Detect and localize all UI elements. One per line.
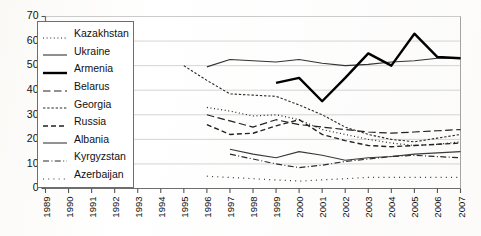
legend-swatch-icon	[42, 99, 68, 109]
svg-text:2000: 2000	[294, 197, 305, 218]
legend-item-kyrgyzstan[interactable]: Kyrgyzstan	[42, 148, 131, 166]
svg-text:1999: 1999	[271, 197, 282, 218]
svg-text:1993: 1993	[133, 197, 144, 218]
legend-item-armenia[interactable]: Armenia	[42, 60, 131, 78]
legend-item-label: Kazakhstan	[74, 28, 129, 39]
legend-item-georgia[interactable]: Georgia	[42, 95, 131, 113]
legend-item-kazakhstan[interactable]: Kazakhstan	[42, 25, 131, 43]
series-line-russia	[207, 120, 461, 147]
legend-swatch-icon	[42, 134, 68, 144]
svg-text:2003: 2003	[363, 197, 374, 218]
legend: KazakhstanUkraineArmeniaBelarusGeorgiaRu…	[37, 21, 134, 188]
svg-text:1994: 1994	[156, 197, 167, 218]
x-axis-labels: 1989199019911992199319941995199619971998…	[41, 197, 467, 218]
legend-item-label: Albania	[74, 134, 109, 145]
svg-text:1989: 1989	[41, 197, 52, 218]
legend-item-label: Kyrgyzstan	[74, 151, 126, 162]
svg-text:70: 70	[27, 9, 39, 21]
legend-item-azerbaijan[interactable]: Azerbaijan	[42, 166, 131, 184]
legend-item-label: Belarus	[74, 81, 110, 92]
svg-text:1998: 1998	[248, 197, 259, 218]
series-line-albania	[230, 149, 461, 160]
legend-swatch-icon	[42, 82, 68, 92]
series-line-georgia	[184, 66, 461, 142]
series-line-kazakhstan	[207, 107, 461, 145]
legend-swatch-icon	[42, 117, 68, 127]
svg-text:2007: 2007	[456, 197, 467, 218]
svg-text:1995: 1995	[179, 197, 190, 218]
legend-swatch-icon	[42, 29, 68, 39]
legend-swatch-icon	[42, 170, 68, 180]
series-line-azerbaijan	[207, 176, 461, 181]
legend-item-belarus[interactable]: Belarus	[42, 78, 131, 96]
svg-text:2004: 2004	[386, 197, 397, 218]
svg-text:2006: 2006	[432, 197, 443, 218]
legend-item-ukraine[interactable]: Ukraine	[42, 43, 131, 61]
series-line-belarus	[207, 115, 461, 133]
legend-swatch-icon	[42, 64, 68, 74]
legend-item-label: Georgia	[74, 99, 111, 110]
legend-item-label: Azerbaijan	[74, 169, 124, 180]
legend-item-albania[interactable]: Albania	[42, 131, 131, 149]
svg-text:1997: 1997	[225, 197, 236, 218]
svg-text:1996: 1996	[202, 197, 213, 218]
legend-item-label: Russia	[74, 116, 106, 127]
svg-text:1991: 1991	[87, 197, 98, 218]
svg-text:2002: 2002	[340, 197, 351, 218]
legend-item-label: Ukraine	[74, 46, 110, 57]
svg-text:1990: 1990	[64, 197, 75, 218]
svg-text:2001: 2001	[317, 197, 328, 218]
x-axis-ticks	[46, 189, 461, 194]
series-line-armenia	[276, 34, 460, 102]
svg-text:2005: 2005	[409, 197, 420, 218]
legend-swatch-icon	[42, 152, 68, 162]
legend-item-label: Armenia	[74, 63, 113, 74]
legend-swatch-icon	[42, 46, 68, 56]
series-lines	[184, 34, 461, 181]
svg-text:1992: 1992	[110, 197, 121, 218]
legend-item-russia[interactable]: Russia	[42, 113, 131, 131]
chart-root: 010203040506070 198919901991199219931994…	[0, 0, 481, 236]
